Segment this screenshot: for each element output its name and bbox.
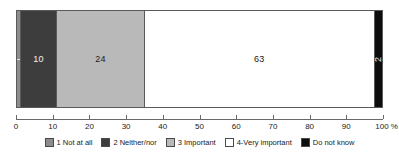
legend-item-label: 3 Important	[178, 139, 216, 147]
axis-tick	[16, 115, 17, 119]
axis-tick	[200, 115, 201, 119]
legend-item[interactable]: 2 Neither/nor	[101, 138, 156, 147]
axis-tick	[163, 115, 164, 119]
axis-tick-label: 30	[122, 123, 131, 131]
axis-tick	[310, 115, 311, 119]
axis-tick-label: 70	[268, 123, 277, 131]
axis-tick-label: 50	[195, 123, 204, 131]
axis-tick-label: 40	[158, 123, 167, 131]
bar-segment-value: 10	[33, 55, 43, 64]
axis-tick	[273, 115, 274, 119]
axis-tick	[346, 115, 347, 119]
bar-segment-5: 2	[375, 11, 382, 107]
legend-item-label: Do not know	[313, 139, 355, 147]
plot-area: 11024632	[16, 10, 383, 108]
legend-item[interactable]: 3 Important	[166, 138, 216, 147]
legend-swatch-icon	[301, 138, 310, 147]
bar-segment-value: 63	[254, 55, 264, 64]
axis-tick	[236, 115, 237, 119]
legend-item[interactable]: Do not know	[301, 138, 355, 147]
bar-segment-3: 24	[57, 11, 145, 107]
legend-swatch-icon	[225, 138, 234, 147]
legend-swatch-icon	[166, 138, 175, 147]
bar-segment-value: 2	[375, 56, 382, 61]
bar-segment-value: 24	[95, 55, 105, 64]
bar-segment-4: 63	[145, 11, 375, 107]
legend-item-label: 2 Neither/nor	[113, 139, 156, 147]
axis-tick-label: 20	[85, 123, 94, 131]
axis-tick-label: 100 %	[375, 123, 398, 131]
legend-item-label: 1 Not at all	[57, 139, 93, 147]
legend-item[interactable]: 1 Not at all	[45, 138, 93, 147]
x-axis: 0102030405060708090100 %	[16, 119, 383, 120]
stacked-bar-chart: 11024632 0102030405060708090100 % 1 Not …	[0, 0, 399, 158]
bar-stack: 11024632	[17, 11, 382, 107]
axis-tick	[89, 115, 90, 119]
axis-tick-label: 60	[232, 123, 241, 131]
legend-swatch-icon	[101, 138, 110, 147]
axis-tick	[383, 115, 384, 119]
axis-tick-label: 80	[305, 123, 314, 131]
axis-tick-label: 90	[342, 123, 351, 131]
axis-tick-label: 0	[14, 123, 18, 131]
chart-legend: 1 Not at all2 Neither/nor3 Important4-Ve…	[0, 138, 399, 147]
legend-item-label: 4-Very important	[237, 139, 292, 147]
legend-item[interactable]: 4-Very important	[225, 138, 292, 147]
bar-segment-2: 10	[21, 11, 58, 107]
legend-swatch-icon	[45, 138, 54, 147]
axis-tick-label: 10	[48, 123, 57, 131]
axis-tick	[53, 115, 54, 119]
axis-tick	[126, 115, 127, 119]
